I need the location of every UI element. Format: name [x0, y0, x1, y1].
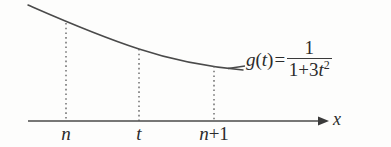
tick-label-n: n — [61, 124, 71, 143]
formula-denominator-coefficient: 3 — [309, 59, 319, 80]
tick-label-n-plus-1: n+1 — [199, 124, 229, 143]
formula-leader-line — [228, 66, 245, 69]
tick-label-n-text: n — [61, 123, 71, 144]
formula-equals-sign: = — [274, 50, 284, 69]
function-graph-figure: n t n+1 x g(t)= 1 1+3t2 — [0, 0, 391, 147]
tick-label-n-plus-1-number: 1 — [219, 123, 229, 144]
formula-fraction: 1 1+3t2 — [287, 38, 332, 80]
formula-function-name: g — [246, 50, 256, 69]
formula-denominator-exponent: 2 — [324, 58, 330, 72]
tick-label-n-plus-1-var: n — [199, 123, 209, 144]
x-axis-arrowhead — [318, 117, 329, 126]
formula-denominator-plus: + — [298, 59, 309, 80]
function-curve — [28, 5, 243, 70]
formula-denominator-one: 1 — [289, 59, 299, 80]
tick-label-t-text: t — [136, 123, 141, 144]
formula-close-paren: ) — [267, 50, 273, 69]
tick-label-t: t — [136, 124, 141, 143]
function-formula: g(t)= 1 1+3t2 — [246, 38, 332, 80]
formula-denominator: 1+3t2 — [287, 59, 332, 80]
x-axis-label: x — [333, 110, 341, 128]
formula-numerator: 1 — [300, 38, 318, 58]
tick-label-n-plus-1-operator: + — [209, 123, 220, 144]
